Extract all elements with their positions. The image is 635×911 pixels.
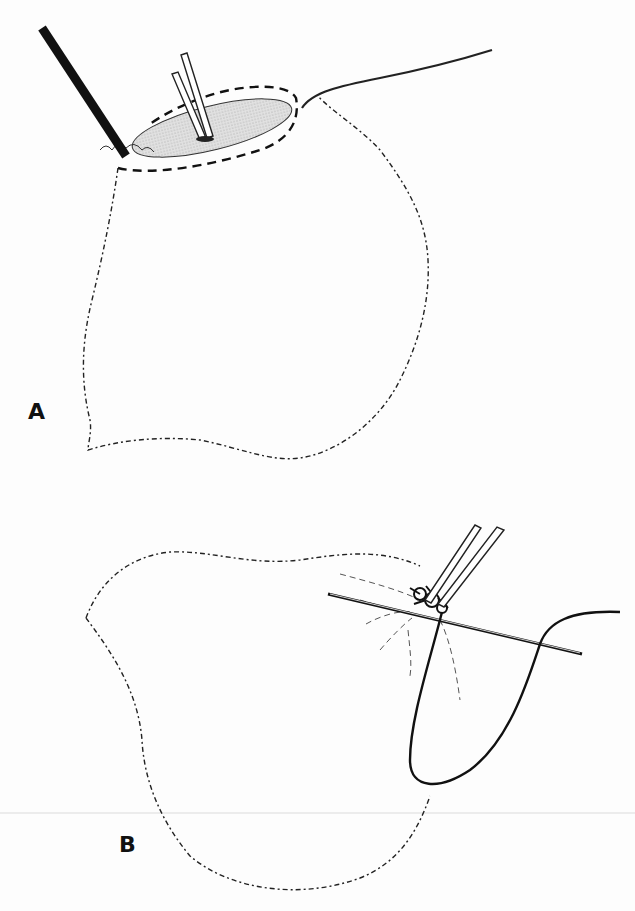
panel-b-drawing [86, 525, 620, 890]
panel-b-sac-outline [86, 552, 430, 890]
panel-a-thread [302, 50, 492, 108]
panel-a-opening-shaded [127, 87, 297, 169]
illustration-canvas: A B [0, 0, 635, 911]
panel-b-tissue-folds [340, 574, 460, 700]
figure-drawing [0, 0, 635, 911]
panel-a-drawing [42, 28, 492, 459]
panel-b-double-bar-clamp [425, 525, 504, 607]
panel-a-dark-instrument [42, 28, 126, 156]
panel-b-label: B [119, 834, 136, 856]
panel-a-label: A [28, 401, 45, 423]
